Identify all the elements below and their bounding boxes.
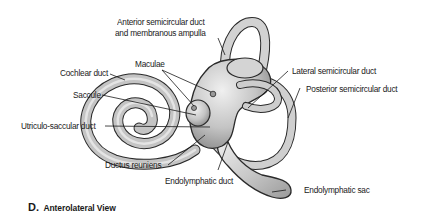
panel-letter: D.: [28, 201, 39, 213]
label-endolymphatic-sac: Endolymphatic sac: [304, 185, 370, 195]
label-cochlear-duct: Cochlear duct: [60, 68, 108, 78]
label-saccule: Saccule: [73, 90, 101, 100]
label-posterior-semicircular-duct: Posterior semicircular duct: [306, 84, 397, 94]
figure-caption: D. Anterolateral View: [28, 197, 116, 215]
label-endolymphatic-duct: Endolymphatic duct: [165, 176, 233, 186]
label-utriculo-saccular-duct: Utriculo-saccular duct: [21, 121, 96, 131]
cochlear-duct: [86, 79, 195, 165]
label-anterior-line2: and membranous ampulla: [115, 28, 206, 38]
label-anterior-line1: Anterior semicircular duct: [117, 17, 204, 27]
label-maculae: Maculae: [135, 59, 165, 69]
panel-title: Anterolateral View: [43, 203, 115, 213]
label-lateral-semicircular-duct: Lateral semicircular duct: [292, 66, 376, 76]
saccule: [186, 100, 210, 126]
label-ductus-reuniens: Ductus reuniens: [105, 160, 161, 170]
